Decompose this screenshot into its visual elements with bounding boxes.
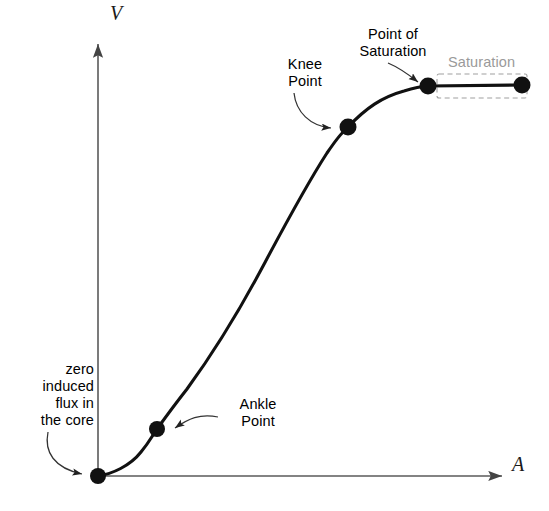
leader-zero-flux-arrow	[47, 432, 82, 474]
y-axis-label: V	[110, 5, 122, 22]
annotation-ankle-line-1: Ankle	[222, 396, 294, 413]
annotation-zero-flux-line-2: induced	[18, 378, 94, 395]
annotation-zero-flux-line-3: flux in	[18, 395, 94, 412]
annotation-zero-flux: zero induced flux in the core	[18, 361, 94, 429]
leader-knee-arrow	[294, 93, 331, 128]
point-saturation[interactable]	[420, 78, 437, 95]
leader-point-of-saturation-arrow	[388, 63, 418, 82]
annotation-knee-line-2: Point	[274, 73, 336, 90]
annotation-pos-line-2: Saturation	[338, 43, 448, 60]
point-ankle[interactable]	[149, 421, 165, 437]
figure-canvas: V A zero induced flux in the core Ankle …	[0, 0, 549, 511]
annotation-knee-point: Knee Point	[274, 56, 336, 90]
annotation-saturation-region-label: Saturation	[448, 54, 515, 71]
annotation-knee-line-1: Knee	[274, 56, 336, 73]
excitation-curve	[98, 85, 522, 476]
point-origin-zero-flux[interactable]	[90, 468, 106, 484]
annotation-ankle-line-2: Point	[222, 413, 294, 430]
point-knee[interactable]	[340, 119, 357, 136]
annotation-zero-flux-line-1: zero	[18, 361, 94, 378]
leader-ankle-arrow	[175, 416, 218, 428]
annotation-ankle-point: Ankle Point	[222, 396, 294, 430]
annotation-zero-flux-line-4: the core	[18, 412, 94, 429]
annotation-point-of-saturation: Point of Saturation	[338, 26, 448, 60]
point-saturation-end[interactable]	[514, 77, 531, 94]
annotation-pos-line-1: Point of	[338, 26, 448, 43]
x-axis-label: A	[512, 456, 524, 473]
